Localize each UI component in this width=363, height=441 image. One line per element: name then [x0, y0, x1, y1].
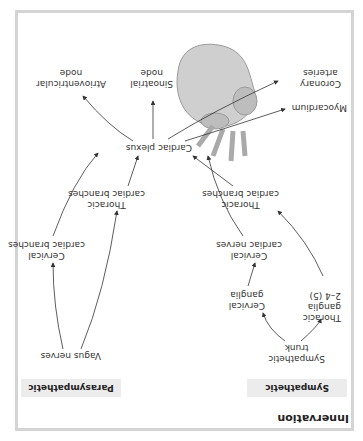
arrow-symp-thoracic-to-plexus: [193, 156, 233, 186]
arrow-vagus-to-cervical-branches: [53, 263, 63, 349]
arrow-cervical-ganglia-to-cervical-nerves: [248, 263, 255, 286]
arrow-plexus-to-av-node: [83, 96, 133, 141]
arrow-thoracic-ganglia-to-thoracic-branches: [278, 211, 323, 276]
arrow-plexus-to-coronary: [168, 81, 278, 139]
arrow-para-cervical-to-plexus: [53, 153, 98, 236]
arrow-trunk-to-thoracic-ganglia: [301, 319, 321, 341]
arrow-layer: [0, 0, 363, 441]
arrow-para-thoracic-to-plexus: [128, 156, 138, 186]
innervation-diagram: Innervation Sympathetic Parasympathetic …: [0, 0, 363, 441]
arrow-cervical-nerves-to-plexus: [208, 156, 243, 236]
arrow-plexus-to-myocardium: [185, 109, 285, 141]
arrow-trunk-to-cervical-ganglia: [263, 313, 285, 341]
arrow-vagus-to-thoracic-branches: [81, 211, 117, 349]
